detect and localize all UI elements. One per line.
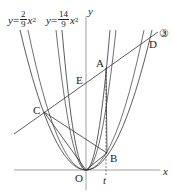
eq-exp: 2	[33, 16, 37, 24]
segment-OB	[86, 153, 107, 170]
point-E-label: E	[76, 74, 83, 86]
segment-CO	[44, 112, 86, 170]
fraction: 149	[58, 10, 69, 29]
graph: y x O t A B C D E ③	[0, 0, 173, 194]
eq-sign: =	[51, 14, 57, 26]
line-3-label: ③	[159, 27, 169, 39]
point-D-label: D	[149, 38, 157, 50]
fraction: 29	[20, 10, 27, 29]
equation-wide: y = 29 x2	[8, 10, 36, 29]
denominator: 9	[61, 20, 66, 29]
point-B-label: B	[110, 152, 117, 164]
point-C-label: C	[33, 104, 40, 116]
origin-label: O	[75, 172, 83, 184]
x-axis-label: x	[162, 165, 168, 177]
segment-AB	[106, 68, 107, 153]
point-A-label: A	[96, 57, 104, 69]
denominator: 9	[21, 20, 26, 29]
equation-narrow: y = 149 x2	[46, 10, 79, 29]
eq-sign: =	[13, 14, 19, 26]
y-axis-label: y	[87, 5, 93, 17]
segment-CB	[44, 112, 107, 153]
eq-exp: 2	[75, 16, 79, 24]
t-label: t	[103, 174, 107, 186]
